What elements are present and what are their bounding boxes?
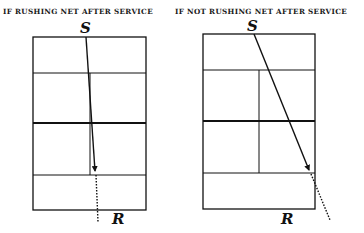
left-receiver-label: R [111, 210, 124, 228]
court-diagrams: S R S R [0, 0, 364, 233]
serve-path-dotted-extension [311, 174, 330, 220]
right-server-label: S [247, 17, 258, 35]
right-receiver-label: R [280, 210, 293, 228]
left-server-label: S [80, 19, 91, 37]
right-court [203, 34, 330, 220]
serve-path-dotted-extension [96, 175, 98, 222]
serve-path-arrow [254, 34, 309, 170]
left-court [33, 37, 146, 222]
